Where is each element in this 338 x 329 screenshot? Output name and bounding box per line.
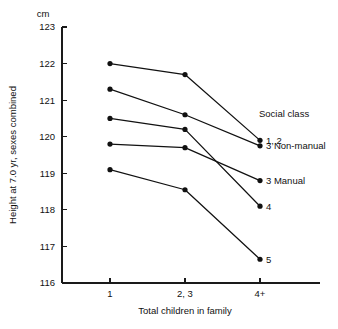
- data-point: [107, 61, 112, 66]
- y-axis-tick-label: 121: [39, 95, 55, 106]
- series-label: 3 Manual: [266, 175, 305, 186]
- chart-container: 116117118119120121122123cm12, 34+Total c…: [0, 0, 338, 329]
- x-axis-title: Total children in family: [138, 305, 232, 316]
- y-axis-tick-label: 122: [39, 58, 55, 69]
- x-axis-tick-label: 1: [107, 288, 112, 299]
- x-axis-tick-label: 2, 3: [177, 288, 193, 299]
- data-point: [182, 112, 187, 117]
- series-label: 3 Non-manual: [266, 140, 326, 151]
- legend-title: Social class: [259, 108, 309, 119]
- data-point: [257, 143, 262, 148]
- y-axis-tick-label: 123: [39, 21, 55, 32]
- series-group: 1, 2: [107, 61, 281, 146]
- data-point: [107, 167, 112, 172]
- y-axis-tick-label: 119: [40, 168, 55, 179]
- x-axis-tick-label: 4+: [255, 288, 266, 299]
- data-point: [257, 178, 262, 183]
- line-chart: 116117118119120121122123cm12, 34+Total c…: [0, 0, 338, 329]
- data-point: [257, 257, 262, 262]
- series-line: [110, 89, 260, 146]
- data-point: [182, 127, 187, 132]
- series-group: 4: [107, 116, 271, 212]
- y-axis-unit-label: cm: [37, 8, 50, 19]
- data-point: [257, 204, 262, 209]
- series-label: 4: [266, 201, 271, 212]
- data-point: [182, 187, 187, 192]
- y-axis-tick-label: 117: [40, 241, 55, 252]
- data-point: [107, 116, 112, 121]
- data-point: [257, 138, 262, 143]
- data-point: [107, 141, 112, 146]
- y-axis-tick-label: 118: [40, 204, 55, 215]
- data-point: [107, 87, 112, 92]
- series-label: 5: [266, 254, 271, 265]
- y-axis-tick-label: 120: [39, 131, 55, 142]
- data-point: [182, 72, 187, 77]
- y-axis-tick-label: 116: [40, 277, 55, 288]
- y-axis-title: Height at 7.0 yr, sexes combined: [7, 86, 18, 224]
- data-point: [182, 145, 187, 150]
- series-group: 5: [107, 167, 271, 265]
